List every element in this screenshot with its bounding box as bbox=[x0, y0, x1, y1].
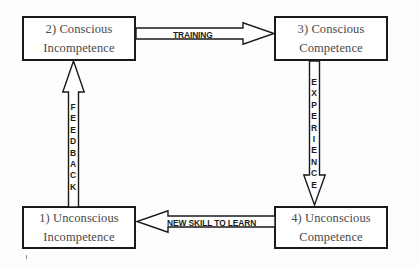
stage-label-line2: Incompetence bbox=[43, 228, 114, 247]
stage-label-line1: 1) Unconscious bbox=[39, 209, 119, 228]
stage-label-line2: Competence bbox=[299, 39, 362, 58]
experience-letter: E bbox=[307, 145, 321, 156]
stage-label-line2: Incompetence bbox=[43, 39, 114, 58]
stage-box-unconscious-incompetence: 1) Unconscious Incompetence bbox=[22, 206, 136, 249]
feedback-letter: D bbox=[66, 136, 80, 147]
experience-letter: X bbox=[307, 88, 321, 99]
stage-box-conscious-competence: 3) Conscious Competence bbox=[274, 16, 388, 61]
experience-letter: R bbox=[307, 123, 321, 134]
scan-artifact-speck bbox=[26, 255, 27, 259]
experience-letter: I bbox=[307, 134, 321, 145]
feedback-letter: F bbox=[66, 102, 80, 113]
arrow-label-experience: E X P E R I E N C E bbox=[307, 77, 321, 191]
arrow-label-feedback: F E E D B A C K bbox=[66, 102, 80, 193]
stage-box-unconscious-competence: 4) Unconscious Competence bbox=[274, 206, 388, 249]
stage-label-line1: 2) Conscious bbox=[46, 20, 113, 39]
arrow-label-new-skill-to-learn: NEW SKILL TO LEARN bbox=[167, 218, 256, 228]
stage-box-conscious-incompetence: 2) Conscious Incompetence bbox=[22, 16, 136, 61]
experience-letter: E bbox=[307, 77, 321, 88]
experience-letter: P bbox=[307, 100, 321, 111]
stage-label-line1: 3) Conscious bbox=[298, 20, 365, 39]
feedback-letter: C bbox=[66, 170, 80, 181]
stage-label-line1: 4) Unconscious bbox=[291, 209, 371, 228]
stage-label-line2: Competence bbox=[299, 228, 362, 247]
feedback-letter: K bbox=[66, 182, 80, 193]
experience-letter: E bbox=[307, 111, 321, 122]
feedback-letter: E bbox=[66, 125, 80, 136]
arrow-label-training: TRAINING bbox=[173, 30, 213, 40]
experience-letter: N bbox=[307, 157, 321, 168]
experience-letter: E bbox=[307, 180, 321, 191]
competence-cycle-diagram: 2) Conscious Incompetence 3) Conscious C… bbox=[0, 0, 419, 267]
experience-letter: C bbox=[307, 168, 321, 179]
feedback-letter: E bbox=[66, 113, 80, 124]
feedback-letter: B bbox=[66, 148, 80, 159]
feedback-letter: A bbox=[66, 159, 80, 170]
